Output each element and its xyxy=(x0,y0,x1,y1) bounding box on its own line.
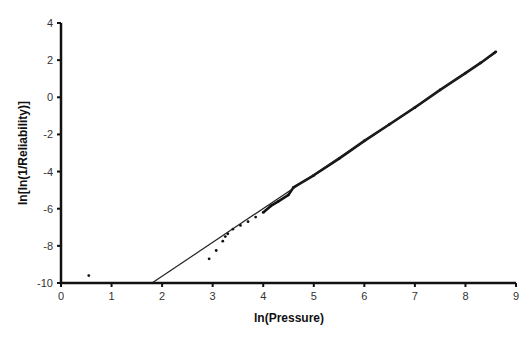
y-tick-label: -10 xyxy=(37,277,53,289)
x-tick-label: 2 xyxy=(159,290,165,302)
data-point xyxy=(254,216,257,219)
fitted-line xyxy=(152,53,496,283)
y-axis-title: ln[ln(1/Reliability)] xyxy=(16,101,30,205)
x-tick-label: 0 xyxy=(58,290,64,302)
x-tick-label: 6 xyxy=(361,290,367,302)
data-point xyxy=(208,257,211,260)
x-tick-label: 9 xyxy=(513,290,519,302)
x-axis-title: ln(Pressure) xyxy=(254,311,324,325)
data-point xyxy=(221,240,224,243)
x-tick-label: 8 xyxy=(462,290,468,302)
y-tick-label: 4 xyxy=(47,17,53,29)
x-tick-label: 4 xyxy=(260,290,266,302)
y-tick-label: 2 xyxy=(47,54,53,66)
y-tick-label: -2 xyxy=(43,128,53,140)
data-point xyxy=(87,274,90,277)
data-point xyxy=(224,235,227,238)
axes: 420-2-4-6-8-100123456789 xyxy=(37,17,519,302)
data-point xyxy=(215,249,218,252)
y-tick-label: 0 xyxy=(47,91,53,103)
x-tick-label: 5 xyxy=(311,290,317,302)
plot-area xyxy=(87,50,497,283)
x-tick-label: 7 xyxy=(412,290,418,302)
y-tick-label: -6 xyxy=(43,203,53,215)
weibull-plot: 420-2-4-6-8-100123456789 ln(Pressure) ln… xyxy=(0,0,531,337)
data-point xyxy=(247,220,250,223)
x-tick-label: 3 xyxy=(210,290,216,302)
y-tick-label: -4 xyxy=(43,166,53,178)
x-tick-label: 1 xyxy=(108,290,114,302)
y-tick-label: -8 xyxy=(43,240,53,252)
